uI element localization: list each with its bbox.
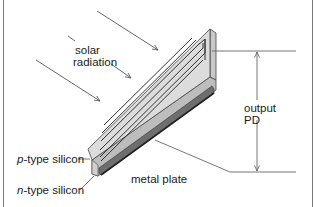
output-label-line2: PD <box>244 114 260 126</box>
p-type-silicon-label: p-type silicon <box>16 153 84 165</box>
solar-cell-diagram: solar radiation outpu <box>0 0 316 207</box>
radiation-arrow-top <box>97 11 158 50</box>
metal-plate-label: metal plate <box>131 173 187 185</box>
output-label: output <box>244 102 277 114</box>
panel-end-face <box>210 29 216 80</box>
solar-radiation-label: solar <box>75 44 100 56</box>
solar-radiation-label-line2: radiation <box>73 56 117 68</box>
metal-plate-leader <box>155 140 230 172</box>
n-type-silicon-label: n-type silicon <box>17 184 84 196</box>
radiation-tick <box>68 36 75 41</box>
solar-panel <box>88 29 216 176</box>
